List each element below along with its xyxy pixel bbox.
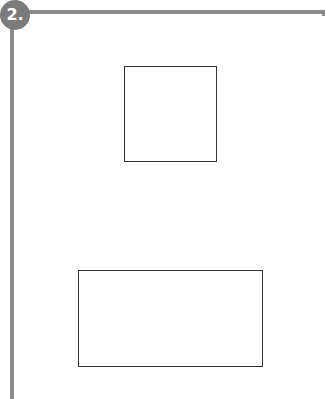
rectangle-shape bbox=[78, 270, 263, 367]
square-shape bbox=[124, 66, 217, 162]
frame-left-border bbox=[10, 14, 14, 399]
frame-top-border bbox=[14, 10, 325, 14]
exercise-number-badge: 2. bbox=[0, 0, 30, 30]
